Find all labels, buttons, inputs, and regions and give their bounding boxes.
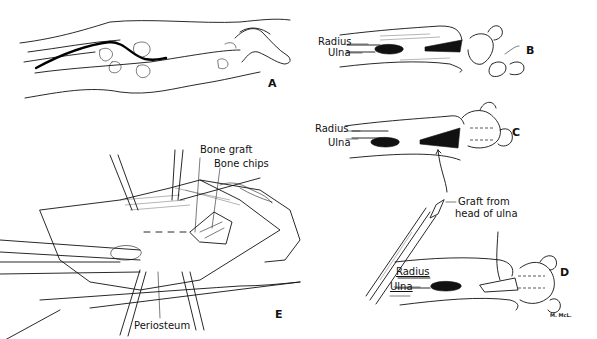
panel-letter-c: C	[512, 126, 520, 139]
label-radius-c: Radius	[315, 123, 349, 134]
label-bone-graft: Bone graft	[200, 144, 253, 155]
panel-letter-d: D	[560, 266, 569, 279]
panel-letter-b: B	[526, 44, 534, 57]
artist-signature: M. McL.	[550, 312, 572, 318]
panel-b-wrist-bones	[340, 26, 524, 77]
panel-c-wrist-bones	[345, 102, 512, 192]
label-radius-b: Radius	[318, 36, 352, 47]
line-art	[0, 0, 597, 339]
label-radius-d: Radius	[396, 266, 430, 277]
label-graft-line2: head of ulna	[455, 208, 518, 219]
surgical-illustration-figure: A Radius Ulna B Radius Ulna C Graft from…	[0, 0, 597, 339]
panel-e-surgical-field	[0, 150, 300, 339]
panel-letter-e: E	[275, 308, 283, 321]
label-ulna-d: Ulna	[390, 281, 413, 292]
label-periosteum: Periosteum	[134, 320, 190, 331]
label-bone-chips: Bone chips	[214, 158, 269, 169]
label-ulna-c: Ulna	[328, 137, 351, 148]
panel-a-forearm-drawing	[20, 19, 290, 98]
label-ulna-b: Ulna	[328, 47, 351, 58]
label-graft-line1: Graft from	[458, 196, 510, 207]
panel-letter-a: A	[268, 77, 277, 90]
